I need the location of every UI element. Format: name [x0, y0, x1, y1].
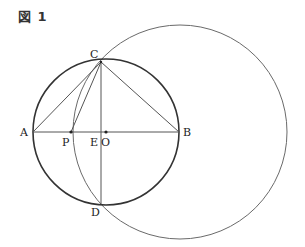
segment-cp	[71, 62, 101, 132]
label-d: D	[91, 206, 100, 219]
label-a: A	[19, 126, 29, 139]
segment-ca	[33, 62, 101, 132]
label-b: B	[183, 126, 191, 139]
point-o-dot	[104, 130, 107, 133]
geometry-diagram: C A B P E O D	[0, 0, 305, 247]
point-p-dot	[69, 130, 72, 133]
label-p: P	[62, 136, 70, 149]
point-c-dot	[100, 61, 102, 63]
label-e: E	[90, 136, 98, 149]
segment-cb	[101, 62, 179, 132]
label-o: O	[101, 136, 110, 149]
label-c: C	[90, 48, 98, 61]
